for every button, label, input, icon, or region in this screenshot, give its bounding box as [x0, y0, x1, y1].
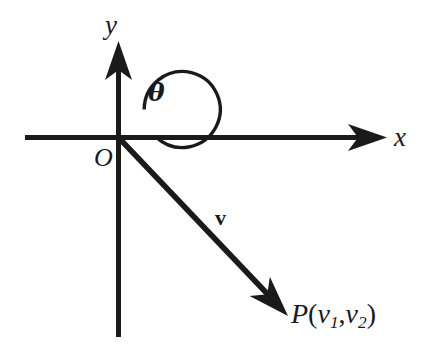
- angle-theta-label: θ: [148, 80, 165, 105]
- y-axis-label: y: [105, 12, 117, 39]
- point-component-2-subscript: 2: [358, 313, 367, 332]
- x-axis-label: x: [394, 124, 406, 151]
- point-close-paren: ): [367, 298, 376, 329]
- point-component-1-subscript: 1: [330, 313, 339, 332]
- point-component-1: v: [317, 298, 329, 329]
- point-comma: ,: [339, 298, 346, 329]
- vector-v-line: [119, 138, 277, 304]
- point-p-name: P: [291, 298, 308, 329]
- point-component-2: v: [346, 298, 358, 329]
- vector-diagram-figure: y x θ O v P(v1,v2): [0, 0, 431, 360]
- point-p-label: P(v1,v2): [291, 300, 376, 331]
- vector-v-label: v: [215, 207, 226, 229]
- origin-label: O: [94, 145, 113, 171]
